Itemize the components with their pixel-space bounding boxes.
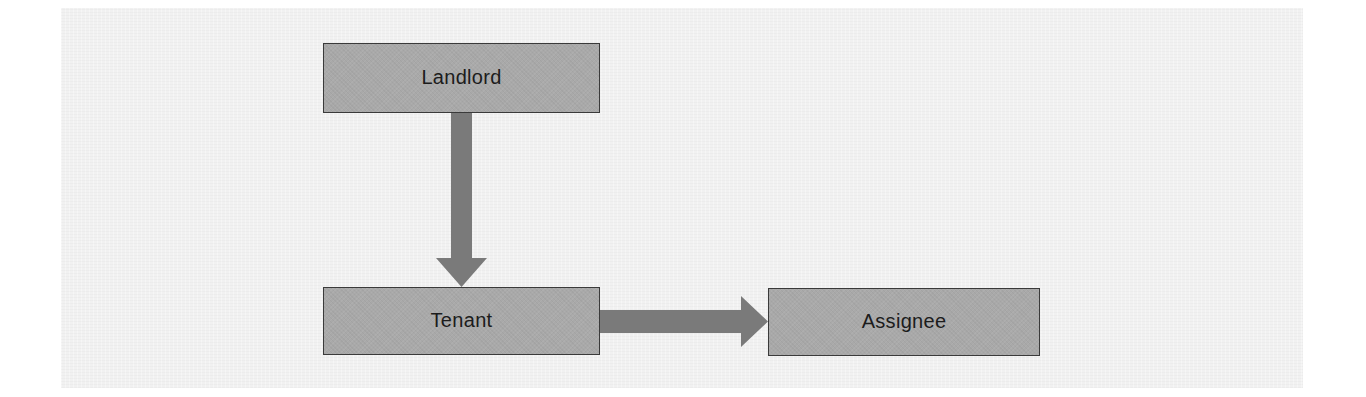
node-landlord: Landlord	[323, 43, 600, 113]
node-assignee-label: Assignee	[862, 310, 947, 333]
node-tenant: Tenant	[323, 287, 600, 355]
node-assignee: Assignee	[768, 288, 1040, 356]
node-tenant-label: Tenant	[431, 309, 493, 332]
diagram-background	[61, 8, 1303, 388]
node-landlord-label: Landlord	[421, 66, 501, 89]
